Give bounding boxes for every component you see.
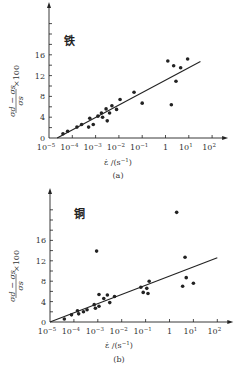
data-point: [139, 286, 143, 290]
data-point: [91, 123, 95, 127]
y-tick-label: 12: [36, 257, 46, 266]
data-point: [175, 211, 179, 215]
y-tick-label: 16: [36, 236, 46, 245]
data-point: [100, 111, 104, 115]
y-axis-label: σd − σsσs×100: [8, 250, 26, 302]
x-tick-label: 102: [207, 326, 221, 337]
x-tick-label: 101: [184, 326, 198, 337]
data-point: [145, 287, 149, 291]
data-point: [102, 297, 106, 301]
data-point: [85, 308, 89, 312]
data-point: [140, 101, 144, 105]
data-point: [77, 312, 81, 316]
x-tick-label: 10−2: [107, 142, 125, 153]
x-axis-label: ε̇ /(s−1): [104, 157, 132, 168]
data-point: [108, 301, 112, 305]
x-tick-label: 10−3: [86, 326, 105, 337]
x-axis-arrow-icon: [222, 136, 228, 140]
y-tick-label: 0: [40, 134, 45, 143]
data-point: [104, 107, 108, 111]
data-point: [172, 64, 176, 68]
data-point: [106, 293, 110, 297]
panel-caption: (a): [112, 171, 123, 180]
data-point: [75, 125, 79, 129]
data-point: [80, 123, 84, 127]
data-point: [115, 108, 119, 112]
y-tick-label: 4: [40, 113, 45, 122]
data-point: [110, 104, 114, 108]
y-axis-arrow-icon: [47, 2, 51, 8]
svg-text:×100: ×100: [12, 65, 21, 87]
data-point: [70, 313, 74, 317]
y-tick-label: 8: [40, 92, 45, 101]
data-point: [184, 276, 188, 280]
x-axis-label: ε̇ /(s−1): [105, 340, 133, 351]
svg-text:σs: σs: [16, 96, 25, 106]
y-tick-label: 8: [41, 277, 46, 286]
x-tick-label: 102: [202, 142, 216, 153]
fit-line: [50, 258, 217, 322]
y-tick-label: 16: [35, 51, 45, 60]
data-point: [92, 303, 96, 307]
data-point: [166, 59, 170, 63]
figure: 048121610−510−410−310−210−11101102ε̇ /(s…: [0, 0, 244, 380]
data-point: [97, 293, 101, 297]
x-tick-label: 1: [167, 327, 172, 336]
x-tick-label: 10−3: [83, 142, 102, 153]
svg-text:×100: ×100: [12, 250, 21, 272]
data-point: [96, 114, 100, 118]
y-axis-arrow-icon: [48, 188, 52, 194]
data-point: [101, 115, 105, 119]
svg-text:σs: σs: [16, 281, 25, 291]
x-tick-label: 10−4: [62, 326, 81, 337]
data-point: [113, 295, 117, 299]
chart-panel-a: 048121610−510−410−310−210−11101102ε̇ /(s…: [8, 2, 229, 180]
data-point: [170, 103, 174, 107]
data-point: [95, 249, 99, 253]
data-point: [186, 57, 190, 61]
data-point: [97, 304, 101, 308]
x-tick-label: 1: [163, 143, 168, 152]
panel-caption: (b): [113, 355, 124, 364]
data-point: [183, 255, 187, 259]
data-point: [88, 116, 92, 120]
data-point: [87, 125, 91, 129]
y-tick-label: 0: [41, 318, 46, 327]
material-label: 铜: [73, 207, 85, 221]
x-tick-label: 10−5: [37, 142, 56, 153]
data-point: [82, 310, 86, 314]
data-point: [94, 306, 98, 310]
data-point: [192, 281, 196, 285]
y-tick-label: 4: [41, 298, 46, 307]
x-tick-label: 10−4: [60, 142, 79, 153]
chart-panel-b: 048121610−510−410−310−210−11101102ε̇ /(s…: [8, 188, 234, 364]
data-point: [141, 291, 145, 295]
data-point: [63, 317, 67, 321]
data-point: [66, 129, 70, 133]
x-tick-label: 10−5: [38, 326, 57, 337]
material-label: 铁: [64, 34, 75, 48]
x-tick-label: 101: [179, 142, 193, 153]
x-tick-label: 10−1: [133, 326, 151, 337]
data-point: [105, 119, 109, 123]
x-tick-label: 10−1: [130, 142, 148, 153]
data-point: [108, 111, 112, 115]
data-point: [61, 132, 65, 136]
data-point: [118, 98, 122, 102]
data-point: [147, 279, 151, 283]
data-point: [132, 90, 136, 94]
y-tick-label: 12: [35, 72, 45, 81]
data-point: [146, 292, 150, 296]
y-axis-label: σd − σsσs×100: [8, 65, 26, 117]
x-tick-label: 10−2: [110, 326, 128, 337]
data-point: [181, 285, 185, 289]
data-point: [174, 80, 178, 84]
x-axis-arrow-icon: [227, 320, 233, 324]
data-point: [179, 66, 183, 70]
data-point: [76, 309, 80, 313]
